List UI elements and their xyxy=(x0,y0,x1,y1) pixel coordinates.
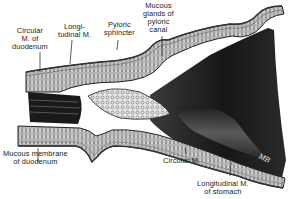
label-circular-m-duodenum: Circular M. of duodenum xyxy=(12,27,48,51)
label-longitudinal-m: Longi- tudinal M. xyxy=(58,23,91,39)
anatomy-figure: MB Circular M. of duodenum Longi- tudina… xyxy=(0,0,297,199)
label-longitudinal-m-stomach: Longitudinal M. of stomach xyxy=(197,180,249,196)
label-mucous-membrane-duodenum: Mucous membrane of duodenum xyxy=(3,150,68,166)
label-circular-m: Circular M. xyxy=(163,157,200,165)
label-mucous-glands-pyloric-canal: Mucous glands of pyloric canal xyxy=(143,2,174,34)
label-pyloric-sphincter: Pyloric sphincter xyxy=(104,21,135,37)
